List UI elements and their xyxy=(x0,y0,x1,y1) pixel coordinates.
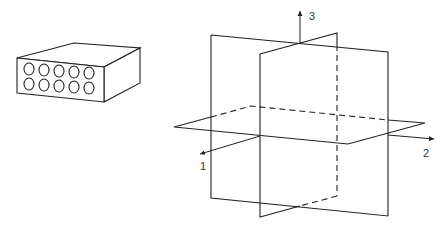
symmetry-planes xyxy=(174,33,425,217)
axis-3-label: 3 xyxy=(309,10,315,22)
plane-a xyxy=(211,35,388,216)
axis-2-arrow xyxy=(388,135,434,139)
horizontal-plane-back-hidden xyxy=(211,106,388,120)
horizontal-plane-front xyxy=(174,117,425,144)
axis-2-label: 2 xyxy=(423,147,429,159)
diagram-canvas: 3 1 2 xyxy=(0,0,448,234)
axis-1-label: 1 xyxy=(200,160,206,172)
plane-b-hidden-bottom xyxy=(300,196,337,206)
plane-b-top xyxy=(260,33,337,54)
perforated-brick xyxy=(17,43,140,102)
axis-1-arrow xyxy=(200,136,260,154)
